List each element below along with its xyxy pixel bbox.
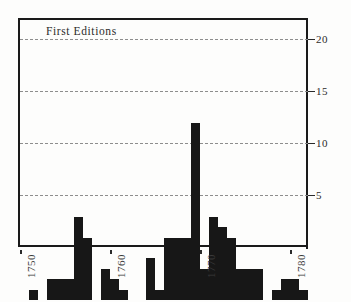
x-tick-label-1760: 1760 xyxy=(115,254,127,278)
chart-description: First Editions xyxy=(0,0,1,1)
bar-1780 xyxy=(290,279,299,300)
bar-1773 xyxy=(227,238,236,300)
bar-1765 xyxy=(155,290,164,300)
bar-1754 xyxy=(56,279,65,300)
y-tick-mark-20 xyxy=(308,39,315,40)
bar-1769 xyxy=(191,123,200,300)
bar-1760 xyxy=(110,279,119,300)
bar-1756 xyxy=(74,217,83,300)
x-tick-label-1780: 1780 xyxy=(295,254,307,278)
bar-1778 xyxy=(272,290,281,300)
y-tick-mark-5 xyxy=(308,195,315,196)
x-tick-label-1750: 1750 xyxy=(25,254,37,278)
chart-figure: First Editions 5101520 1750176017701780 … xyxy=(0,0,351,302)
bar-1774 xyxy=(236,269,245,300)
gridline-20 xyxy=(20,39,308,40)
bar-1764 xyxy=(146,258,155,300)
y-tick-label-20: 20 xyxy=(316,33,328,45)
x-tick-label-1770: 1770 xyxy=(205,254,217,278)
bar-series xyxy=(20,73,308,300)
y-tick-mark-15 xyxy=(308,91,315,92)
x-tick-mark-1780 xyxy=(290,250,292,254)
bar-1779 xyxy=(281,279,290,300)
bar-1766 xyxy=(164,238,173,300)
bar-1775 xyxy=(245,269,254,300)
bar-1755 xyxy=(65,279,74,300)
y-tick-mark-10 xyxy=(308,143,315,144)
bar-1751 xyxy=(29,290,38,300)
bar-1776 xyxy=(254,269,263,300)
bar-1768 xyxy=(182,238,191,300)
bar-1757 xyxy=(83,238,92,300)
bar-1772 xyxy=(218,227,227,300)
y-tick-label-5: 5 xyxy=(316,189,322,201)
chart-title: First Editions xyxy=(46,25,117,37)
bar-1767 xyxy=(173,238,182,300)
x-tick-mark-1750 xyxy=(20,250,22,254)
bar-1759 xyxy=(101,269,110,300)
bar-1761 xyxy=(119,290,128,300)
y-tick-label-15: 15 xyxy=(316,85,328,97)
bar-1781 xyxy=(299,290,308,300)
bar-1753 xyxy=(47,279,56,300)
y-tick-label-10: 10 xyxy=(316,137,328,149)
x-tick-mark-1760 xyxy=(110,250,112,254)
x-tick-mark-1770 xyxy=(200,250,202,254)
